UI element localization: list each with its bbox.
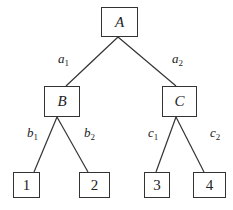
edge-label-a1: a1 <box>58 52 69 68</box>
tree-diagram: A B C 1 2 3 4 a1 a2 b1 b2 c1 c2 <box>0 0 233 210</box>
node-c: C <box>162 86 197 117</box>
edge-c2 <box>176 117 204 172</box>
node-b-label: B <box>57 93 66 110</box>
node-b: B <box>44 86 80 117</box>
edge-a1 <box>66 37 118 86</box>
edge-label-a2: a2 <box>172 52 183 68</box>
edge-label-b1: b1 <box>27 126 38 142</box>
node-4-label: 4 <box>206 177 214 194</box>
node-c-label: C <box>174 93 184 110</box>
edge-c1 <box>156 117 176 172</box>
node-a: A <box>101 7 138 37</box>
node-2-label: 2 <box>91 177 99 194</box>
node-3-label: 3 <box>153 177 161 194</box>
node-a-label: A <box>115 14 124 31</box>
node-2: 2 <box>79 172 110 198</box>
node-3: 3 <box>144 172 170 198</box>
edge-label-c1: c1 <box>148 126 158 142</box>
node-1-label: 1 <box>23 177 31 194</box>
edge-label-c2: c2 <box>210 126 220 142</box>
node-1: 1 <box>13 172 40 198</box>
edge-label-b2: b2 <box>84 126 95 142</box>
node-4: 4 <box>193 172 226 198</box>
edge-a2 <box>118 37 176 86</box>
